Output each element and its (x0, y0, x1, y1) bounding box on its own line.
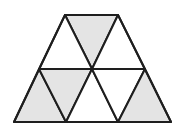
triangle-diagram (0, 0, 174, 131)
triangle-grid-svg (0, 0, 174, 131)
